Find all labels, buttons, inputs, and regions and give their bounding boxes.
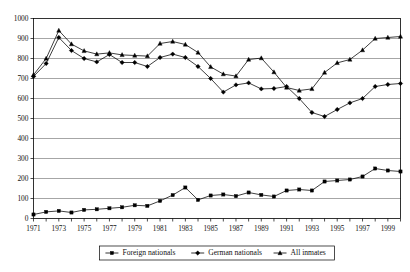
series-all-inmates <box>31 28 402 92</box>
legend-label: Foreign nationals <box>122 248 175 257</box>
x-axis-label: 1973 <box>52 225 67 233</box>
chart-legend: Foreign nationalsGerman nationalsAll inm… <box>99 246 334 260</box>
data-point-square-marker <box>348 178 351 181</box>
y-axis-label: 900 <box>17 34 28 43</box>
y-axis-label: 300 <box>17 154 28 163</box>
data-point-square-marker <box>399 170 402 173</box>
data-point-square-marker <box>298 188 301 191</box>
data-point-diamond-marker <box>272 86 276 90</box>
x-axis-label: 1999 <box>381 225 396 233</box>
data-point-square-marker <box>285 189 288 192</box>
x-axis-label: 1987 <box>229 225 244 233</box>
y-axis-label: 800 <box>17 54 28 63</box>
x-axis-label: 1977 <box>102 225 117 233</box>
data-point-square-marker <box>120 206 123 209</box>
data-point-square-marker <box>374 167 377 170</box>
y-axis-label: 200 <box>17 174 28 183</box>
x-axis-label: 1995 <box>330 225 345 233</box>
data-point-diamond-marker <box>348 101 352 105</box>
data-point-square-marker <box>70 211 73 214</box>
series-foreign-nationals <box>32 167 402 216</box>
data-point-square-marker <box>361 175 364 178</box>
series-german-nationals <box>31 35 402 118</box>
data-point-square-marker <box>234 195 237 198</box>
data-point-square-marker <box>95 208 98 211</box>
data-point-square-marker <box>108 207 111 210</box>
y-axis-label: 700 <box>17 74 28 83</box>
data-point-square-marker <box>222 193 225 196</box>
x-axis-label: 1991 <box>279 225 294 233</box>
data-point-square-marker <box>158 199 161 202</box>
chart-container: 01002003004005006007008009001000 1971197… <box>0 0 410 272</box>
line-chart: 01002003004005006007008009001000 1971197… <box>0 0 410 272</box>
legend-label: German nationals <box>208 248 262 257</box>
data-point-square-marker <box>310 189 313 192</box>
series-polyline <box>34 38 401 117</box>
data-point-square-marker <box>272 195 275 198</box>
data-point-diamond-marker <box>386 82 390 86</box>
data-point-square-marker <box>110 251 113 254</box>
data-point-square-marker <box>196 198 199 201</box>
x-axis-label: 1979 <box>128 225 143 233</box>
y-axis-label: 500 <box>17 114 28 123</box>
data-point-triangle-marker <box>57 28 61 32</box>
data-point-triangle-marker <box>348 57 352 61</box>
data-point-diamond-marker <box>234 83 238 87</box>
data-point-square-marker <box>45 210 48 213</box>
data-point-square-marker <box>209 194 212 197</box>
legend-label: All inmates <box>291 248 326 257</box>
data-point-diamond-marker <box>398 81 402 85</box>
data-point-diamond-marker <box>82 56 86 60</box>
data-point-diamond-marker <box>120 60 124 64</box>
data-point-triangle-marker <box>221 72 225 76</box>
x-axis-label: 1981 <box>153 225 168 233</box>
y-axis-labels-group: 01002003004005006007008009001000 <box>14 14 29 223</box>
data-point-diamond-marker <box>322 114 326 118</box>
data-point-square-marker <box>146 204 149 207</box>
data-point-square-marker <box>247 191 250 194</box>
y-axis-label: 100 <box>17 194 28 203</box>
series-polyline <box>34 31 401 91</box>
data-point-square-marker <box>83 208 86 211</box>
x-axis-label: 1983 <box>178 225 193 233</box>
data-point-triangle-marker <box>322 70 326 74</box>
y-axis-label: 1000 <box>14 14 29 23</box>
data-point-diamond-marker <box>246 81 250 85</box>
data-point-square-marker <box>323 180 326 183</box>
data-point-diamond-marker <box>335 107 339 111</box>
data-point-square-marker <box>32 213 35 216</box>
data-point-square-marker <box>336 179 339 182</box>
data-point-diamond-marker <box>171 52 175 56</box>
x-axis-label: 1971 <box>26 225 41 233</box>
x-axis-label: 1989 <box>254 225 269 233</box>
data-point-square-marker <box>260 193 263 196</box>
x-axis-label: 1985 <box>203 225 218 233</box>
y-axis-label: 400 <box>17 134 28 143</box>
data-point-square-marker <box>171 194 174 197</box>
data-point-diamond-marker <box>133 60 137 64</box>
x-axis-label: 1975 <box>77 225 92 233</box>
data-point-triangle-marker <box>171 39 175 43</box>
data-point-triangle-marker <box>259 56 263 60</box>
data-point-square-marker <box>386 169 389 172</box>
series-group <box>31 28 402 216</box>
data-point-square-marker <box>184 186 187 189</box>
data-point-square-marker <box>133 204 136 207</box>
data-point-triangle-marker <box>82 49 86 53</box>
y-axis-label: 0 <box>25 214 29 223</box>
data-point-diamond-marker <box>95 60 99 64</box>
data-point-square-marker <box>57 209 60 212</box>
x-axis-label: 1993 <box>305 225 320 233</box>
x-axis-label: 1997 <box>355 225 370 233</box>
gridlines-group <box>31 19 401 219</box>
data-point-triangle-marker <box>196 50 200 54</box>
data-point-triangle-marker <box>398 34 402 38</box>
x-axis-labels-group: 1971197319751977197919811983198519871989… <box>26 225 395 233</box>
data-point-triangle-marker <box>107 51 111 55</box>
data-point-diamond-marker <box>259 87 263 91</box>
series-polyline <box>34 169 401 215</box>
x-axis-tickmarks-group <box>34 219 401 222</box>
y-axis-label: 600 <box>17 94 28 103</box>
